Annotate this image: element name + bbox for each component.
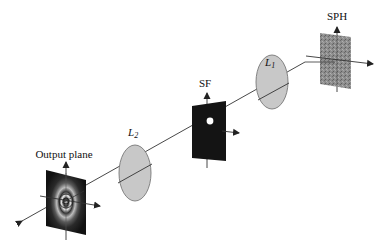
output-plane xyxy=(40,162,100,240)
sph xyxy=(305,27,373,92)
optical-diagram: Output plane L2 SF L1 SPH xyxy=(0,0,390,240)
sf-label: SF xyxy=(199,77,211,89)
sph-label: SPH xyxy=(327,10,347,22)
pinhole xyxy=(207,118,214,125)
lens-l2-label: L2 xyxy=(127,126,138,140)
spatial-filter xyxy=(192,93,239,168)
output-plane-label: Output plane xyxy=(35,148,92,160)
